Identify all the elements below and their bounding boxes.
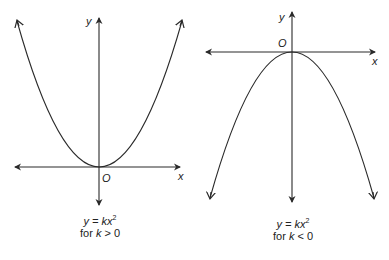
caption-positive-k: y = kx2 for k > 0 xyxy=(60,214,140,240)
graph-negative-k xyxy=(206,12,375,202)
exponent: 2 xyxy=(306,217,310,224)
equation: y = kx xyxy=(84,215,113,227)
graph-positive-k xyxy=(15,18,182,205)
condition-prefix: for xyxy=(273,230,289,242)
condition: < 0 xyxy=(294,230,313,242)
condition-prefix: for xyxy=(80,227,96,239)
caption-negative-k: y = kx2 for k < 0 xyxy=(253,217,333,243)
origin-label: O xyxy=(278,38,287,49)
condition: > 0 xyxy=(101,227,120,239)
y-axis-label: y xyxy=(86,16,92,27)
x-axis-label: x xyxy=(178,171,184,182)
equation: y = kx xyxy=(277,218,306,230)
y-axis-label: y xyxy=(279,12,285,23)
origin-label: O xyxy=(102,173,111,184)
x-axis-label: x xyxy=(372,56,378,67)
exponent: 2 xyxy=(113,214,117,221)
